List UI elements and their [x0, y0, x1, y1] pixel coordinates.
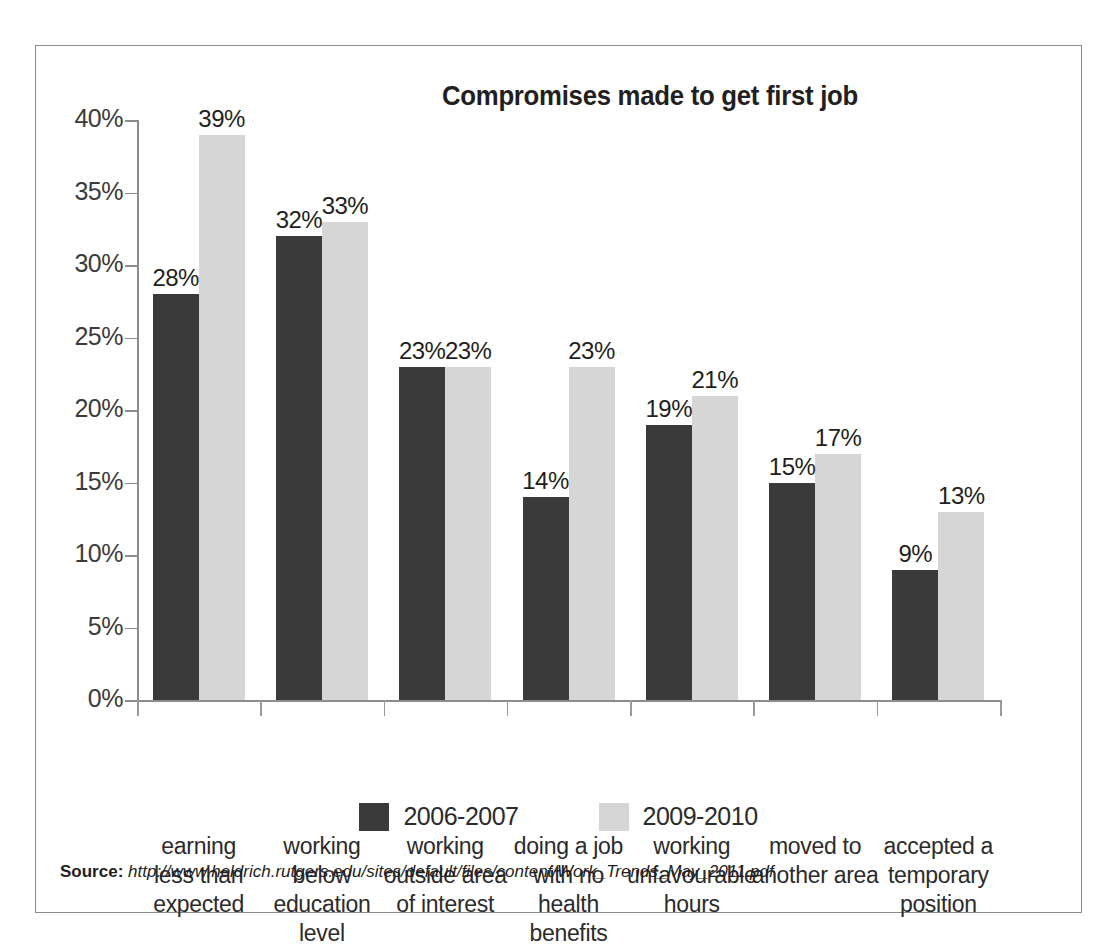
x-axis-category-label-line: accepted a	[871, 832, 1006, 861]
y-axis-tick-label: 20%	[53, 394, 123, 423]
bar-value-label: 33%	[305, 192, 385, 220]
bar-value-label: 28%	[136, 264, 216, 292]
y-axis-tick	[125, 338, 137, 340]
bar	[199, 135, 245, 701]
x-axis-category-label-line: earning	[131, 832, 266, 861]
x-axis-category-label-line: health benefits	[501, 890, 636, 947]
category-separator-tick	[877, 700, 879, 716]
bar	[153, 294, 199, 700]
legend-item: 2009-2010	[599, 802, 758, 831]
y-axis-tick	[125, 120, 137, 122]
bar-value-label: 15%	[752, 453, 832, 481]
legend-swatch	[599, 803, 629, 831]
x-axis-category-label: doing a jobwith nohealth benefits	[501, 832, 636, 947]
x-axis-category-label-line: level	[254, 919, 389, 947]
x-axis-line	[137, 700, 1000, 702]
category-separator-tick	[1000, 700, 1002, 716]
chart-legend: 2006-20072009-2010	[35, 802, 1082, 831]
source-label: Source:	[60, 862, 123, 881]
bar	[692, 396, 738, 701]
x-axis-category-label: accepted atemporaryposition	[871, 832, 1006, 919]
source-note: Source: http://www.heldrich.rutgers.edu/…	[60, 862, 774, 882]
x-axis-category-label-line: working	[378, 832, 513, 861]
bar-value-label: 14%	[506, 467, 586, 495]
bar-value-label: 23%	[428, 337, 508, 365]
category-separator-tick	[384, 700, 386, 716]
legend-label: 2006-2007	[403, 802, 518, 831]
y-axis-tick-label: 25%	[53, 322, 123, 351]
bar	[322, 222, 368, 701]
x-axis-category-label: working beloweducationlevel	[254, 832, 389, 947]
bar	[523, 497, 569, 700]
y-axis-tick-label: 15%	[53, 467, 123, 496]
y-axis-tick	[125, 410, 137, 412]
y-axis-tick-label: 40%	[53, 104, 123, 133]
bar-value-label: 19%	[629, 395, 709, 423]
y-axis-tick-label: 10%	[53, 539, 123, 568]
x-axis-category-label-line: of interest	[378, 890, 513, 919]
y-axis-tick	[125, 628, 137, 630]
bar	[892, 570, 938, 701]
y-axis-tick-label: 5%	[53, 612, 123, 641]
bar-value-label: 17%	[798, 424, 878, 452]
bar-value-label: 23%	[552, 337, 632, 365]
bar	[769, 483, 815, 701]
x-axis-category-label-line: temporary	[871, 861, 1006, 890]
legend-swatch	[359, 803, 389, 831]
category-separator-tick	[753, 700, 755, 716]
x-axis-category-label-line: moved to	[747, 832, 882, 861]
y-axis-tick-label: 35%	[53, 177, 123, 206]
bar	[445, 367, 491, 701]
bar	[276, 236, 322, 700]
legend-item: 2006-2007	[359, 802, 518, 831]
y-axis-tick	[125, 555, 137, 557]
x-axis-category-label-line: hours	[624, 890, 759, 919]
bar	[815, 454, 861, 701]
plot-area: 28%39%32%33%23%23%14%23%19%21%15%17%9%13…	[137, 120, 1000, 700]
bar	[399, 367, 445, 701]
bar	[646, 425, 692, 701]
y-axis-line	[137, 120, 139, 700]
x-axis-category-label-line: working	[624, 832, 759, 861]
y-axis-labels: 0%5%10%15%20%25%30%35%40%	[53, 120, 123, 700]
source-url: http://www.heldrich.rutgers.edu/sites/de…	[128, 862, 774, 881]
category-separator-tick	[630, 700, 632, 716]
chart-title: Compromises made to get first job	[328, 80, 972, 112]
x-axis-category-label-line: education	[254, 890, 389, 919]
y-axis-tick-label: 30%	[53, 249, 123, 278]
y-axis-tick	[125, 483, 137, 485]
category-separator-tick	[507, 700, 509, 716]
x-axis-category-label-line: doing a job	[501, 832, 636, 861]
bar-value-label: 9%	[875, 540, 955, 568]
category-separator-tick	[260, 700, 262, 716]
bar	[569, 367, 615, 701]
category-separator-tick	[137, 700, 139, 716]
bar-value-label: 21%	[675, 366, 755, 394]
y-axis-tick	[125, 700, 137, 702]
x-axis-category-label-line: expected	[131, 890, 266, 919]
x-axis-category-label-line: position	[871, 890, 1006, 919]
bar-value-label: 39%	[182, 105, 262, 133]
legend-label: 2009-2010	[643, 802, 758, 831]
y-axis-tick	[125, 193, 137, 195]
y-axis-tick-label: 0%	[53, 684, 123, 713]
bar-value-label: 13%	[921, 482, 1001, 510]
